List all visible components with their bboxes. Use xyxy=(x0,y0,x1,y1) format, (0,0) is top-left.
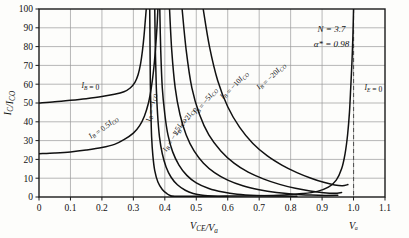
annotation-n: N = 3.7 xyxy=(317,24,346,34)
y-tick-label: 60 xyxy=(24,80,34,90)
y-tick-label: 50 xyxy=(24,98,34,108)
x-tick-label: 1.1 xyxy=(379,203,391,213)
y-tick-label: 40 xyxy=(24,117,34,127)
x-tick-label: 0.4 xyxy=(159,203,171,213)
chart-root: IB = 0IB = 0.5ICOIB = −ICOIB = −1.5ICOIB… xyxy=(0,0,409,238)
annotation-alpha-star: α* = 0.98 xyxy=(314,39,350,49)
annotation-va-marker: Vₐ xyxy=(349,220,358,231)
x-tick-label: 0.1 xyxy=(65,203,77,213)
y-tick-label: 100 xyxy=(19,4,34,14)
x-tick-label: 0.7 xyxy=(253,203,265,213)
y-tick-label: 10 xyxy=(24,174,34,184)
x-tick-label: 0.5 xyxy=(190,203,202,213)
y-tick-label: 20 xyxy=(24,155,34,165)
y-tick-label: 90 xyxy=(24,23,34,33)
y-tick-label: 30 xyxy=(24,136,34,146)
x-tick-label: 0.9 xyxy=(316,203,328,213)
transistor-breakdown-chart: IB = 0IB = 0.5ICOIB = −ICOIB = −1.5ICOIB… xyxy=(0,0,409,238)
y-tick-label: 80 xyxy=(24,42,34,52)
x-tick-label: 0.8 xyxy=(285,203,297,213)
y-tick-label: 0 xyxy=(28,192,33,202)
x-tick-label: 0.2 xyxy=(96,203,108,213)
x-tick-label: 0.3 xyxy=(127,203,139,213)
x-tick-label: 1.0 xyxy=(348,203,360,213)
x-tick-label: 0.6 xyxy=(222,203,234,213)
curve-label-ib-0: IB = 0 xyxy=(80,81,99,92)
x-tick-label: 0 xyxy=(37,203,42,213)
curve-label-ie-0: IE = 0 xyxy=(364,83,383,94)
y-tick-label: 70 xyxy=(24,61,34,71)
